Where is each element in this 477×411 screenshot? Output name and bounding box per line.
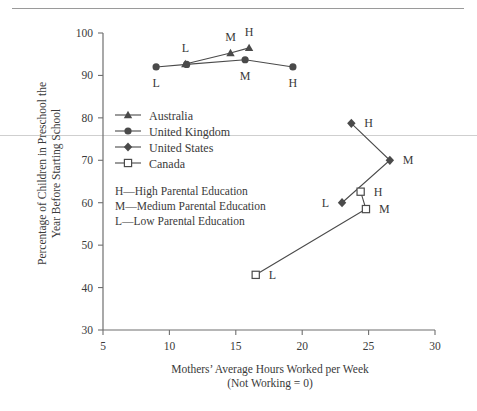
x-tick-label: 30: [429, 340, 441, 352]
data-point-label: M: [403, 153, 414, 167]
data-point-marker: [252, 271, 259, 278]
y-axis-label: Percentage of Children in Preschool the …: [36, 29, 63, 319]
y-axis-label-line2: Year Before Starting School: [49, 29, 63, 319]
annotation-note: H—High Parental Education: [115, 185, 248, 198]
data-point-marker: [245, 44, 253, 51]
legend-marker-open-square: [124, 159, 131, 166]
chart-container: 3040506070809010051015202530LMHLMHHMLHML…: [0, 0, 477, 411]
data-point-label: L: [322, 196, 329, 210]
legend-label: United States: [149, 141, 214, 155]
annotation-note: L—Low Parental Education: [115, 215, 245, 227]
legend-label: Canada: [149, 157, 186, 171]
data-point-marker: [153, 63, 160, 70]
x-tick-label: 5: [100, 340, 106, 352]
y-axis-label-line1: Percentage of Children in Preschool the: [36, 29, 50, 319]
data-point-label: L: [152, 76, 159, 90]
data-point-label: M: [225, 30, 236, 44]
data-point-marker: [289, 63, 296, 70]
legend-marker-circle: [124, 127, 131, 134]
data-point-label: H: [364, 116, 373, 130]
y-tick-label: 100: [76, 27, 94, 39]
x-tick-label: 20: [296, 340, 308, 352]
data-point-label: M: [379, 202, 390, 216]
y-tick-label: 90: [82, 69, 94, 81]
legend-marker-diamond: [124, 142, 132, 151]
legend-label: United Kingdom: [149, 125, 231, 139]
data-point-marker: [357, 188, 364, 195]
y-tick-label: 60: [82, 197, 94, 209]
y-tick-label: 50: [82, 239, 94, 251]
data-point-label: L: [269, 268, 276, 282]
data-point-label: H: [289, 76, 298, 90]
y-tick-label: 80: [82, 112, 94, 124]
x-tick-label: 10: [164, 340, 176, 352]
series-line-canada: [256, 192, 366, 275]
data-point-label: H: [245, 25, 254, 39]
legend-label: Australia: [149, 109, 194, 123]
y-tick-label: 30: [82, 324, 94, 336]
y-tick-label: 70: [82, 154, 94, 166]
x-axis-label-line2: (Not Working = 0): [103, 376, 437, 390]
line-chart-plot: 3040506070809010051015202530LMHLMHHMLHML…: [0, 0, 477, 411]
x-axis-label: Mothers’ Average Hours Worked per Week (…: [103, 362, 437, 390]
x-axis-label-line1: Mothers’ Average Hours Worked per Week: [103, 362, 437, 376]
y-tick-label: 40: [82, 282, 94, 294]
series-line-united-states: [342, 123, 390, 202]
data-point-label: L: [182, 41, 189, 55]
data-point-marker: [362, 205, 369, 212]
data-point-marker: [241, 56, 248, 63]
data-point-marker: [183, 61, 190, 68]
data-point-label: M: [240, 69, 251, 83]
x-tick-label: 15: [230, 340, 242, 352]
annotation-note: M—Medium Parental Education: [115, 200, 266, 212]
x-tick-label: 25: [363, 340, 375, 352]
data-point-label: H: [374, 185, 383, 199]
series-line-united-kingdom: [156, 60, 293, 67]
